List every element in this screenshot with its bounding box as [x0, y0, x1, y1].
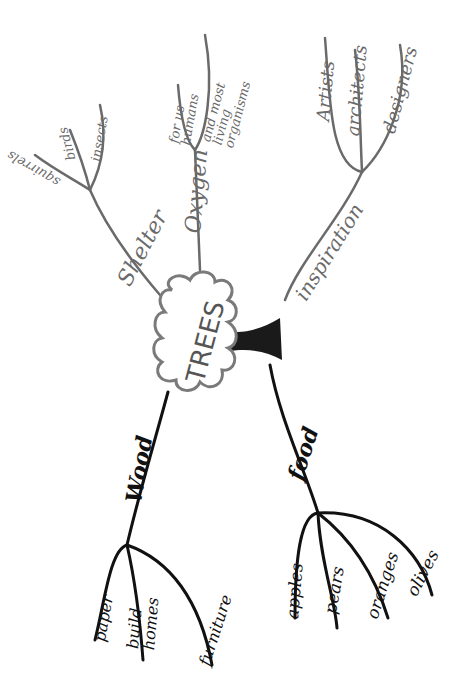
leaf-label-build-homes: build homes	[125, 588, 162, 651]
